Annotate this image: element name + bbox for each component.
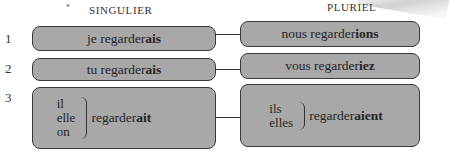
pronoun-group: ils elles regarderaient <box>269 102 382 130</box>
pronoun-list: il elle on <box>57 97 76 139</box>
form-stem: je regarder <box>87 31 145 47</box>
singular-form-1: je regarderais <box>32 26 216 51</box>
row-connector-3 <box>215 117 241 118</box>
form-stem: tu regarder <box>87 62 146 78</box>
row-connector-2 <box>215 69 241 70</box>
asterisk-mark: * <box>66 3 70 12</box>
form-stem: regarder <box>309 108 354 124</box>
singular-form-2: tu regarderais <box>32 58 216 81</box>
brace-icon <box>81 97 87 139</box>
form-ending: iez <box>359 58 375 74</box>
pronoun-list: ils elles <box>269 102 293 130</box>
form-stem: vous regarder <box>285 58 359 74</box>
singular-form-3: il elle on regarderait <box>32 87 216 149</box>
brace-icon <box>299 102 305 130</box>
row-connector-1 <box>215 34 241 35</box>
plural-form-2: vous regarderiez <box>240 53 420 79</box>
plural-header: PLURIEL <box>327 1 376 13</box>
row-number-1: 1 <box>5 31 12 47</box>
row-number-2: 2 <box>5 61 12 77</box>
form-ending: ions <box>355 26 378 42</box>
form-ending: ait <box>136 110 151 126</box>
pronoun: on <box>57 125 76 139</box>
singular-header: SINGULIER <box>89 4 152 16</box>
form-ending: aient <box>354 108 383 124</box>
form-ending: ais <box>146 62 162 78</box>
pronoun: ils <box>269 102 293 116</box>
form-stem: regarder <box>91 110 136 126</box>
pronoun-group: il elle on regarderait <box>57 97 152 139</box>
pronoun: elle <box>57 111 76 125</box>
pronoun: il <box>57 97 76 111</box>
pronoun: elles <box>269 116 293 130</box>
row-number-3: 3 <box>5 90 12 106</box>
form-stem: nous regarder <box>281 26 355 42</box>
plural-form-3: ils elles regarderaient <box>240 84 420 147</box>
form-ending: ais <box>145 31 161 47</box>
plural-form-1: nous regarderions <box>240 21 420 47</box>
